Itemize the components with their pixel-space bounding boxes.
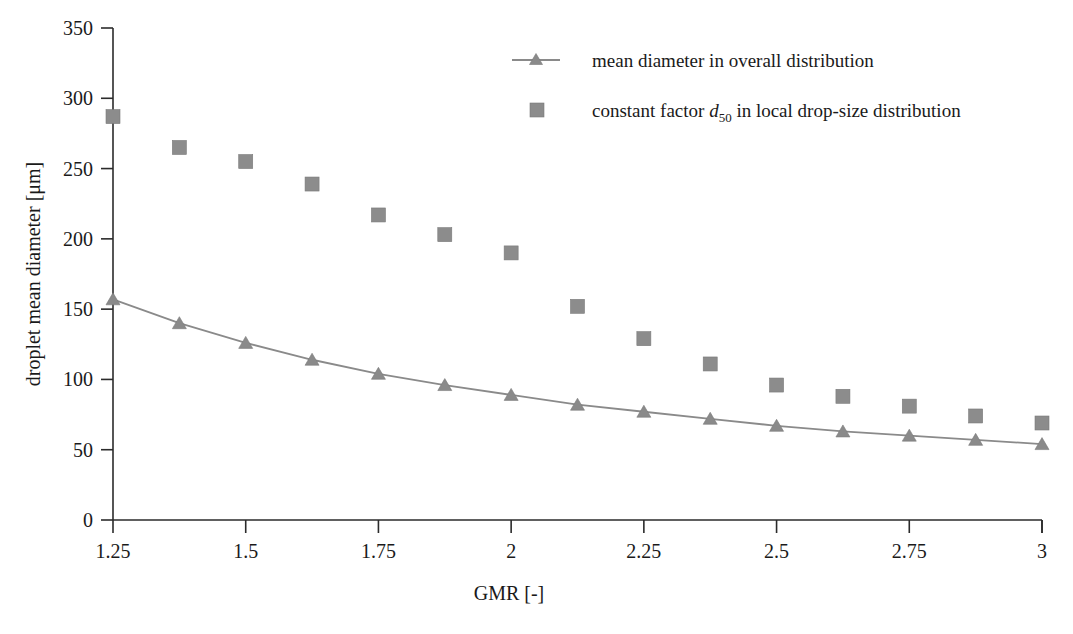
legend-label-1-post: in local drop-size distribution <box>732 100 962 121</box>
y-tick-label: 250 <box>63 158 93 180</box>
legend-label-1-pre: constant factor <box>592 100 709 121</box>
data-point-square <box>172 140 186 154</box>
y-tick-label: 150 <box>63 298 93 320</box>
y-tick-label: 50 <box>73 439 93 461</box>
data-point-square <box>571 299 585 313</box>
series-0-line <box>113 299 1042 444</box>
data-point-square <box>836 389 850 403</box>
x-tick-label: 1.5 <box>233 540 258 562</box>
y-tick-label: 100 <box>63 368 93 390</box>
data-point-square <box>703 357 717 371</box>
x-tick-label: 2 <box>506 540 516 562</box>
data-point-square <box>969 409 983 423</box>
data-point-square <box>1035 416 1049 430</box>
legend-item-d50[interactable]: constant factor d50 in local drop-size d… <box>530 100 961 125</box>
data-point-square <box>305 177 319 191</box>
series-points-d50 <box>106 110 1049 430</box>
x-tick-label: 1.25 <box>96 540 131 562</box>
legend-label-1-subscript: 50 <box>719 110 732 125</box>
legend-triangle-icon <box>530 54 543 65</box>
legend-square-icon <box>530 103 544 117</box>
x-tick-label: 2.25 <box>626 540 661 562</box>
legend-label-1-symbol: d <box>709 100 719 121</box>
chart-canvas: 050100150200250300350 1.251.51.7522.252.… <box>0 0 1073 634</box>
y-tick-label: 300 <box>63 87 93 109</box>
data-point-square <box>438 228 452 242</box>
x-tick-label: 3 <box>1037 540 1047 562</box>
data-point-square <box>371 208 385 222</box>
x-axis: 1.251.51.7522.252.52.753 <box>96 520 1048 562</box>
legend-label-1: constant factor d50 in local drop-size d… <box>592 100 961 125</box>
data-point-triangle <box>106 293 120 305</box>
x-tick-label: 2.5 <box>764 540 789 562</box>
x-tick-label: 2.75 <box>892 540 927 562</box>
legend-item-mean-diameter[interactable]: mean diameter in overall distribution <box>512 50 874 71</box>
legend-label-0: mean diameter in overall distribution <box>592 50 874 71</box>
y-axis: 050100150200250300350 <box>63 17 113 531</box>
y-axis-tick-labels: 050100150200250300350 <box>63 17 93 531</box>
data-point-square <box>239 155 253 169</box>
x-axis-title: GMR [-] <box>474 582 545 604</box>
x-axis-tick-labels: 1.251.51.7522.252.52.753 <box>96 540 1048 562</box>
data-point-triangle <box>239 336 253 348</box>
x-axis-ticks <box>113 520 1042 533</box>
data-point-square <box>637 332 651 346</box>
data-point-triangle <box>172 317 186 329</box>
data-point-square <box>504 246 518 260</box>
series-0-markers <box>106 293 1049 450</box>
y-tick-label: 200 <box>63 228 93 250</box>
series-1-markers <box>106 110 1049 430</box>
figure-root: 050100150200250300350 1.251.51.7522.252.… <box>0 0 1073 634</box>
data-point-square <box>770 378 784 392</box>
y-axis-ticks <box>101 28 113 520</box>
data-point-square <box>902 399 916 413</box>
y-tick-label: 350 <box>63 17 93 39</box>
data-point-square <box>106 110 120 124</box>
y-axis-title: droplet mean diameter [μm] <box>22 162 45 387</box>
x-tick-label: 1.75 <box>361 540 396 562</box>
legend: mean diameter in overall distribution co… <box>512 50 961 125</box>
series-line-mean-diameter <box>106 293 1049 450</box>
y-tick-label: 0 <box>83 509 93 531</box>
